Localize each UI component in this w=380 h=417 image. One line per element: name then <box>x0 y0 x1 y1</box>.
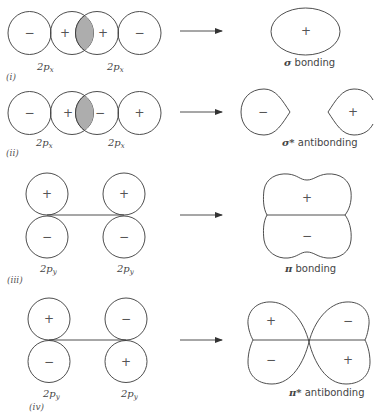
row-label: (i) <box>6 72 16 82</box>
sign-label: − <box>121 312 131 326</box>
sign-label: + <box>98 26 108 40</box>
row-iv: + − − + 2py 2py (iv) + − − + π* antibond… <box>28 298 370 412</box>
sign-label: + <box>266 314 276 328</box>
molecular-orbital-diagram: − + + − 2px 2px (i) + σ bonding − + − + <box>0 0 380 417</box>
sign-label: + <box>63 106 73 120</box>
mo-label: π bonding <box>284 263 336 274</box>
sign-label: + <box>42 187 52 201</box>
sign-label: − <box>302 229 312 243</box>
row-iii: + − + − 2py 2py (iii) + − π bonding <box>7 173 351 285</box>
sign-label: − <box>258 105 268 119</box>
orbital-label: 2px <box>36 61 54 74</box>
sign-label: + <box>60 26 70 40</box>
sign-label: − <box>266 353 276 367</box>
sign-label: − <box>44 355 54 369</box>
mo-label: σ bonding <box>284 57 335 68</box>
row-i: − + + − 2px 2px (i) + σ bonding <box>6 8 340 82</box>
sign-label: + <box>44 312 54 326</box>
mo-label: σ* antibonding <box>282 137 358 148</box>
sign-label: + <box>343 353 353 367</box>
sign-label: − <box>42 230 52 244</box>
pi-star-lobe-bottom-left <box>248 340 309 384</box>
orbital-label: 2py <box>39 263 58 276</box>
sign-label: − <box>119 230 129 244</box>
sign-label: − <box>343 314 353 328</box>
sign-label: − <box>134 26 144 40</box>
orbital-label: 2py <box>42 388 61 401</box>
row-label: (iv) <box>29 402 44 412</box>
sign-label: + <box>121 355 131 369</box>
row-ii: − + − + 2px 2px (ii) − + σ* antibonding <box>6 89 373 158</box>
sign-label: + <box>302 191 312 205</box>
sign-label: + <box>119 187 129 201</box>
row-label: (iii) <box>7 275 23 285</box>
sign-label: + <box>134 106 144 120</box>
sign-label: + <box>301 24 311 38</box>
pi-star-lobe-top-right <box>309 302 369 342</box>
pi-star-lobe-top-left <box>248 302 309 342</box>
sign-label: + <box>348 105 358 119</box>
sign-label: − <box>24 106 34 120</box>
orbital-label: 2py <box>116 263 135 276</box>
sign-label: − <box>24 26 34 40</box>
orbital-label: 2px <box>106 61 124 74</box>
row-label: (ii) <box>6 148 19 158</box>
pi-star-lobe-bottom-right <box>309 340 370 384</box>
orbital-label: 2py <box>120 388 139 401</box>
orbital-label: 2px <box>35 137 53 150</box>
sign-label: − <box>95 106 105 120</box>
orbital-label: 2px <box>107 137 125 150</box>
row-iii-atomic-orbital-right: + − <box>103 173 145 258</box>
row-iii-atomic-orbital-left: + − <box>26 173 68 258</box>
mo-label: π* antibonding <box>288 387 365 398</box>
